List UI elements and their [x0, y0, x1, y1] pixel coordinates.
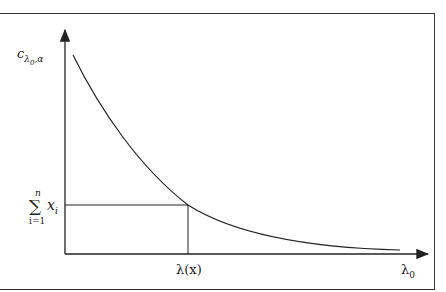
y-axis-label: cλ0,α [17, 46, 43, 66]
sum-label: n ∑ i=1 xi [26, 190, 76, 230]
x-marker-label: λ(x) [176, 262, 202, 277]
curve [73, 55, 400, 250]
x-axis-label: λ0 [401, 262, 415, 280]
chart-canvas [0, 0, 446, 292]
